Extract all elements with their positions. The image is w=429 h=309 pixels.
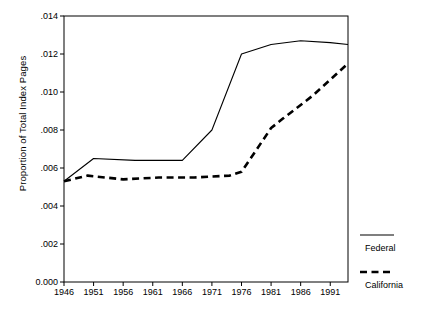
legend-label-california: California: [365, 280, 403, 290]
plot-area: [0, 0, 429, 309]
data-series-layer: [64, 41, 348, 182]
chart-figure: Proportion of Total Index Pages 0.000.00…: [0, 0, 429, 309]
legend-line-samples: [360, 235, 394, 272]
axis-tick-marks: [60, 16, 330, 286]
axes-frame: [64, 16, 348, 282]
series-line-california: [64, 64, 348, 182]
legend-label-federal: Federal: [365, 243, 396, 253]
series-line-federal: [64, 41, 348, 182]
